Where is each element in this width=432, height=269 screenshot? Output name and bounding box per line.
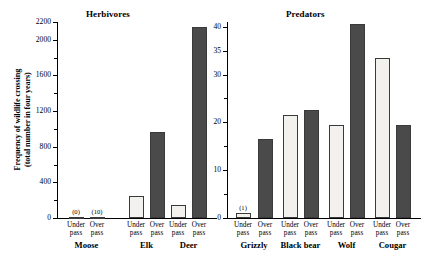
y-tick-major-herbivores-800 [53, 147, 57, 148]
bar-herbivores-deer-under [171, 205, 186, 218]
y-tick-label-predators-30: 30 [187, 70, 221, 79]
pass-label-herbivores-deer-over: Overpass [181, 221, 217, 237]
bar-annotation-herbivores-moose-over: (10) [83, 208, 111, 215]
y-tick-major-herbivores-1600 [53, 75, 57, 76]
bar-predators-cougar-over [396, 125, 411, 218]
y-tick-label-herbivores-400: 400 [17, 177, 51, 186]
bar-predators-cougar-under [375, 58, 390, 218]
y-tick-minor-herbivores-600 [54, 165, 57, 166]
y-tick-label-predators-40: 40 [187, 22, 221, 31]
pass-label-herbivores-moose-over: Overpass [79, 221, 115, 237]
y-tick-label-herbivores-1200: 1200 [17, 106, 51, 115]
y-tick-major-herbivores-0 [53, 218, 57, 219]
bar-predators-black-bear-over [304, 110, 319, 218]
y-tick-minor-predators-5 [224, 194, 227, 195]
y-tick-major-herbivores-400 [53, 182, 57, 183]
pass-label-line1: Over [79, 221, 115, 229]
bar-herbivores-moose-over [90, 217, 105, 219]
y-tick-label-herbivores-1600: 1600 [17, 70, 51, 79]
y-tick-major-herbivores-2000 [53, 40, 57, 41]
y-tick-major-predators-35 [223, 51, 227, 52]
y-tick-label-herbivores-800: 800 [17, 142, 51, 151]
pass-label-line1: Over [181, 221, 217, 229]
pass-label-line2: pass [79, 229, 115, 237]
pass-label-line2: pass [385, 229, 421, 237]
bar-predators-grizzly-over [258, 139, 273, 218]
pass-label-line1: Over [385, 221, 421, 229]
y-tick-minor-herbivores-200 [54, 200, 57, 201]
group-label-herbivores-deer: Deer [154, 240, 224, 250]
bar-predators-wolf-under [329, 125, 344, 218]
bar-herbivores-elk-over [150, 132, 165, 218]
bar-predators-grizzly-under [236, 213, 251, 218]
y-tick-major-predators-20 [223, 122, 227, 123]
y-tick-label-predators-10: 10 [187, 165, 221, 174]
pass-label-line2: pass [181, 229, 217, 237]
group-label-predators-cougar: Cougar [358, 240, 428, 250]
y-tick-minor-herbivores-1800 [54, 58, 57, 59]
y-tick-minor-predators-25 [224, 98, 227, 99]
y-tick-major-predators-30 [223, 75, 227, 76]
y-tick-label-predators-20: 20 [187, 117, 221, 126]
y-tick-major-herbivores-1200 [53, 111, 57, 112]
x-axis-line-predators [227, 218, 421, 219]
y-axis-line-predators [227, 22, 228, 219]
y-tick-label-herbivores-0: 0 [17, 213, 51, 222]
bar-herbivores-elk-under [129, 196, 144, 218]
chart-figure: Frequency of wildlife crossing (total nu… [0, 0, 432, 269]
y-tick-major-herbivores-2200 [53, 22, 57, 23]
y-tick-label-predators-35: 35 [187, 46, 221, 55]
y-tick-label-herbivores-2200: 2200 [17, 17, 51, 26]
bar-predators-black-bear-under [283, 115, 298, 218]
y-tick-minor-herbivores-1400 [54, 93, 57, 94]
bar-predators-wolf-over [350, 24, 365, 218]
y-tick-major-predators-10 [223, 170, 227, 171]
y-tick-major-predators-40 [223, 27, 227, 28]
y-tick-minor-herbivores-1000 [54, 129, 57, 130]
y-axis-line-herbivores [57, 22, 58, 219]
bar-annotation-predators-grizzly-under: (1) [229, 204, 257, 211]
y-tick-label-herbivores-2000: 2000 [17, 35, 51, 44]
bar-herbivores-moose-under [69, 217, 84, 219]
y-tick-major-predators-0 [223, 218, 227, 219]
y-tick-minor-predators-15 [224, 146, 227, 147]
y-tick-label-predators-0: 0 [187, 213, 221, 222]
panel-title-herbivores: Herbivores [86, 9, 130, 19]
panel-title-predators: Predators [286, 9, 325, 19]
pass-label-predators-cougar-over: Overpass [385, 221, 421, 237]
